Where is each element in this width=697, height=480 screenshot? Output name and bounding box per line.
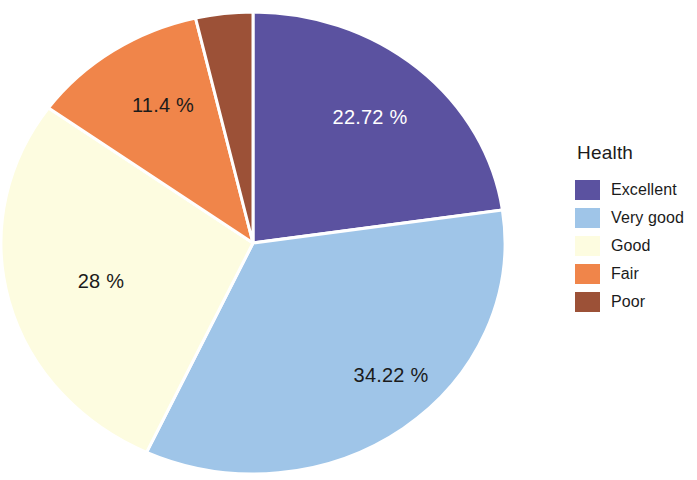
legend-color-swatch xyxy=(575,208,600,228)
legend-item-list: ExcellentVery goodGoodFairPoor xyxy=(575,176,697,315)
legend-item-label: Fair xyxy=(611,265,639,283)
legend-color-swatch xyxy=(575,180,600,200)
legend-item-good[interactable]: Good xyxy=(575,232,697,259)
pie-slice-value-label: 11.4 % xyxy=(132,94,194,116)
legend-color-swatch xyxy=(575,236,600,256)
legend-item-label: Excellent xyxy=(611,181,677,199)
legend-title: Health xyxy=(577,142,697,164)
legend-item-excellent[interactable]: Excellent xyxy=(575,176,697,203)
legend-item-label: Good xyxy=(611,237,651,255)
legend-item-label: Poor xyxy=(611,293,645,311)
legend-item-label: Very good xyxy=(611,209,684,227)
pie-slice-value-label: 34.22 % xyxy=(354,364,429,386)
legend-item-poor[interactable]: Poor xyxy=(575,288,697,315)
pie-slice-value-label: 28 % xyxy=(78,270,124,292)
pie-slice-value-label: 22.72 % xyxy=(333,106,408,128)
pie-slice-group xyxy=(1,12,505,474)
legend-item-fair[interactable]: Fair xyxy=(575,260,697,287)
legend-color-swatch xyxy=(575,264,600,284)
chart-canvas: 22.72 %34.22 %28 %11.4 % Health Excellen… xyxy=(0,0,697,480)
chart-legend: Health ExcellentVery goodGoodFairPoor xyxy=(575,142,697,316)
legend-item-very-good[interactable]: Very good xyxy=(575,204,697,231)
legend-color-swatch xyxy=(575,292,600,312)
